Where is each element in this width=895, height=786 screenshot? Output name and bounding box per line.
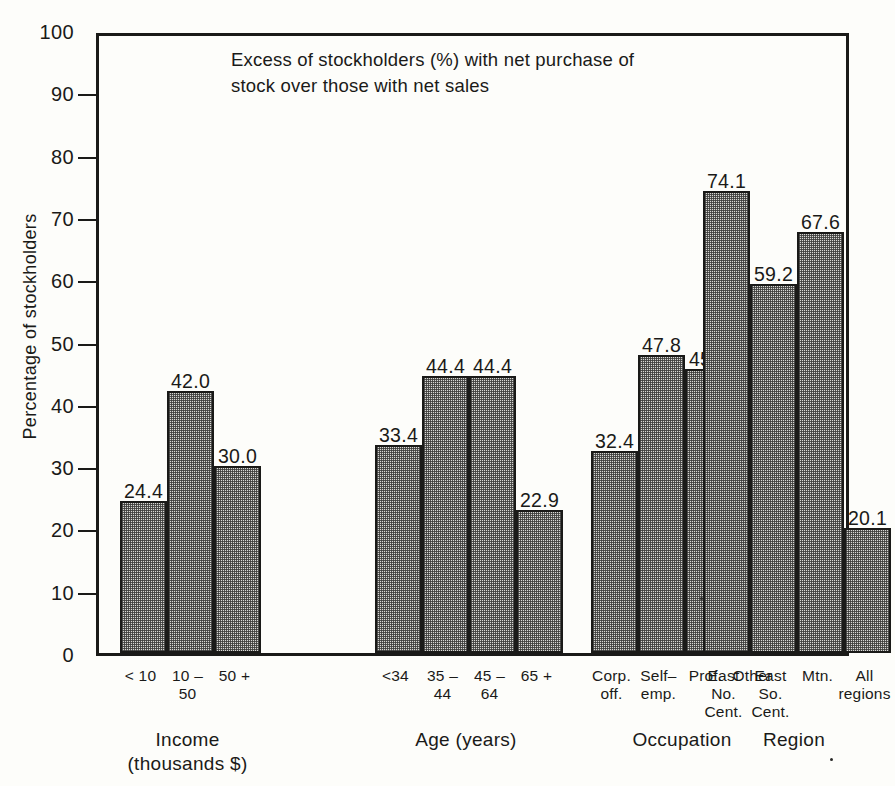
bar (844, 528, 891, 653)
bar (214, 466, 261, 653)
category-label-line: 50 (151, 685, 224, 703)
bar (469, 376, 516, 653)
group-label-line: Region (640, 728, 895, 752)
category-label: 65 + (500, 667, 573, 685)
bar (120, 501, 167, 653)
y-axis-tick-label: 20 (0, 520, 74, 540)
category-label-line: Cent. (734, 703, 807, 721)
group-label-line: Income (57, 728, 318, 752)
y-axis-tick-label: 60 (0, 271, 74, 291)
y-axis-tick-label: 40 (0, 396, 74, 416)
bars-layer: 24.442.030.033.444.444.422.932.447.845.6… (99, 36, 846, 653)
bar-value-label: 42.0 (158, 371, 223, 391)
y-axis-tick-label: 10 (0, 583, 74, 603)
bar-value-label: 30.0 (205, 446, 270, 466)
y-axis-tick-label: 80 (0, 147, 74, 167)
category-label-line: So. (734, 685, 807, 703)
y-axis-tick-label: 0 (0, 645, 74, 665)
category-label-line: All (828, 667, 895, 685)
bar-value-label: 74.1 (694, 171, 759, 191)
bar (591, 451, 638, 653)
group-label: Income(thousands $) (57, 728, 318, 776)
category-label: 50 + (198, 667, 271, 685)
bar (797, 232, 844, 653)
bar-value-label: 20.1 (835, 508, 895, 528)
category-label-line: emp. (622, 685, 695, 703)
bar (375, 445, 422, 653)
y-axis-tick-label: 50 (0, 334, 74, 354)
bar (703, 191, 750, 653)
bar-value-label: 67.6 (788, 212, 853, 232)
y-axis-tick-label: 70 (0, 209, 74, 229)
bar (638, 355, 685, 653)
bar (167, 391, 214, 653)
category-label-line: 50 + (198, 667, 271, 685)
group-label: Region (640, 728, 895, 752)
category-label-line: 65 + (500, 667, 573, 685)
bar-value-label: 22.9 (507, 490, 572, 510)
group-label-line: (thousands $) (57, 752, 318, 776)
category-label-line: regions (828, 685, 895, 703)
category-label: Allregions (828, 667, 895, 703)
y-axis-tick-label: 90 (0, 84, 74, 104)
y-axis-tick-label: 100 (0, 22, 74, 42)
page-speck (700, 597, 703, 600)
bar (516, 510, 563, 653)
bar-value-label: 44.4 (460, 356, 525, 376)
y-axis-tick-label: 30 (0, 458, 74, 478)
bar (422, 376, 469, 653)
page-speck (830, 758, 833, 761)
plot-area: Excess of stockholders (%) with net purc… (96, 33, 849, 656)
bar (750, 284, 797, 653)
category-label-line: 64 (453, 685, 526, 703)
